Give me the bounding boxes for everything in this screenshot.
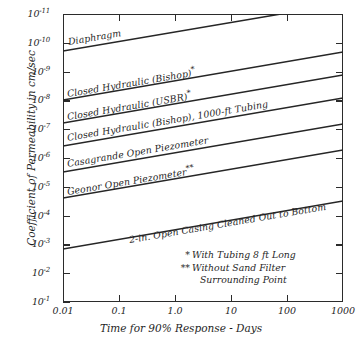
x-axis-title: Time for 90% Response - Days: [0, 322, 362, 334]
x-tick-label: 1000: [331, 305, 355, 316]
footnotes-block: *With Tubing 8 ft Long **Without Sand Fi…: [176, 249, 296, 287]
footnote-text-3: Surrounding Point: [176, 274, 296, 287]
x-tick-label: 100: [278, 305, 296, 316]
y-tick-mark: [63, 302, 70, 303]
y-tick-label: 10-11: [10, 7, 50, 19]
y-axis-title: Coefficient of Permeability in cm/sec: [25, 33, 37, 263]
x-tick-label: 0.01: [52, 305, 73, 316]
x-tick-label: 1.0: [167, 305, 182, 316]
footnote-text-2: Without Sand Filter: [192, 262, 285, 273]
footnote-marker-double: **: [176, 262, 190, 275]
y-tick-label: 10-2: [10, 266, 50, 278]
footnote-text-1: With Tubing 8 ft Long: [192, 249, 296, 260]
x-tick-label: 10: [225, 305, 237, 316]
x-tick-label: 0.1: [111, 305, 126, 316]
footnote-marker-single: *: [176, 249, 190, 262]
footnote-line-1: *With Tubing 8 ft Long: [176, 249, 296, 262]
figure-permeability-response-chart: 10-11 10-10 10-9 10-8 10-7 10-6 10-5 10-…: [0, 0, 362, 350]
y-tick-label: 10-1: [10, 295, 50, 307]
footnote-line-2: **Without Sand Filter: [176, 262, 296, 275]
